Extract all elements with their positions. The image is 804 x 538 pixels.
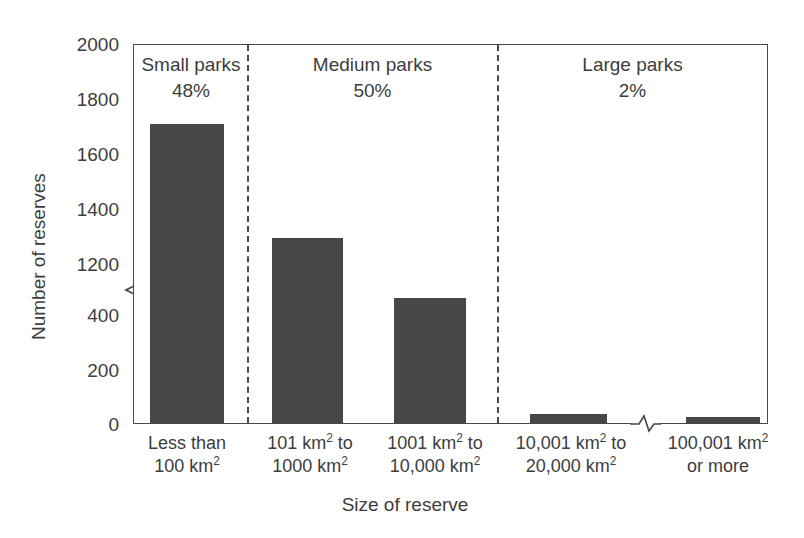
x-axis-break-icon [628, 412, 662, 434]
y-tick-label-2000: 2000 [55, 35, 119, 54]
group-percent-medium-parks: 50% [250, 78, 495, 104]
group-name-large-parks: Large parks [500, 52, 765, 78]
x-tick-label-100001-or-more: 100,001 km2 or more [642, 432, 794, 478]
group-annotation-large-parks: Large parks 2% [500, 52, 765, 104]
x-tick-line1: 101 km2 to [247, 432, 373, 455]
y-tick-label-1200: 1200 [55, 255, 119, 274]
y-axis-title: Number of reserves [28, 173, 50, 340]
x-tick-line1: 100,001 km2 [642, 432, 794, 455]
x-tick-line2: 100 km2 [122, 455, 252, 478]
y-tick-label-0: 0 [55, 415, 119, 434]
bar-100001-or-more [686, 417, 760, 424]
bar-1001-to-10000 [394, 298, 466, 424]
x-tick-label-10001-to-20000: 10,001 km2 to 20,000 km2 [498, 432, 644, 478]
group-divider-medium-large [497, 45, 499, 423]
bar-chart-figure: Number of reserves 2000 1800 1600 1400 1… [0, 0, 804, 538]
y-tick-label-200: 200 [55, 361, 119, 380]
y-tick-label-1600: 1600 [55, 145, 119, 164]
y-tick-label-1400: 1400 [55, 200, 119, 219]
group-percent-small-parks: 48% [137, 78, 245, 104]
y-tick-label-400: 400 [55, 306, 119, 325]
group-name-small-parks: Small parks [137, 52, 245, 78]
x-tick-label-101-to-1000: 101 km2 to 1000 km2 [247, 432, 373, 478]
group-annotation-small-parks: Small parks 48% [137, 52, 245, 104]
x-tick-line2: 20,000 km2 [498, 455, 644, 478]
bar-less-than-100 [150, 124, 224, 424]
x-tick-line1: 1001 km2 to [368, 432, 502, 455]
y-tick-label-1800: 1800 [55, 90, 119, 109]
bar-101-to-1000 [272, 238, 343, 424]
bar-10001-to-20000 [530, 414, 607, 424]
group-annotation-medium-parks: Medium parks 50% [250, 52, 495, 104]
group-percent-large-parks: 2% [500, 78, 765, 104]
group-divider-small-medium [247, 45, 249, 423]
x-tick-line2: 1000 km2 [247, 455, 373, 478]
x-tick-label-1001-to-10000: 1001 km2 to 10,000 km2 [368, 432, 502, 478]
x-tick-line2: 10,000 km2 [368, 455, 502, 478]
x-tick-label-less-than-100: Less than 100 km2 [122, 432, 252, 478]
x-axis-title: Size of reserve [290, 494, 520, 516]
group-name-medium-parks: Medium parks [250, 52, 495, 78]
x-tick-line2: or more [642, 455, 794, 478]
x-tick-line1: 10,001 km2 to [498, 432, 644, 455]
x-tick-line1: Less than [122, 432, 252, 455]
